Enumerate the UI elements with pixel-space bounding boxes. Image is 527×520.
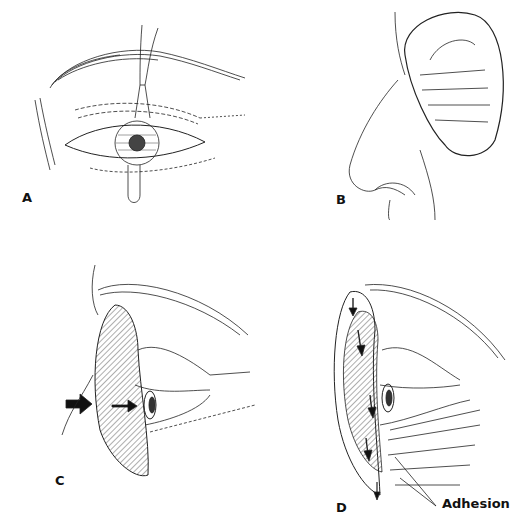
adhesion-callout: Adhesion — [442, 496, 510, 511]
panel-label-a: A — [22, 190, 32, 205]
eye-frontal-illustration — [0, 0, 270, 220]
panel-label-d: D — [336, 500, 347, 515]
panel-d: D Adhesion — [270, 260, 527, 520]
panel-label-b: B — [336, 192, 346, 207]
panel-b: B — [270, 0, 527, 220]
panel-label-c: C — [55, 473, 65, 488]
eye-lateral-adhesion-illustration — [270, 260, 527, 520]
panel-c: C — [0, 260, 270, 520]
eye-lateral-shield-illustration — [0, 260, 270, 520]
nose-profile-dressing-illustration — [270, 0, 527, 220]
panel-a: A — [0, 0, 270, 220]
